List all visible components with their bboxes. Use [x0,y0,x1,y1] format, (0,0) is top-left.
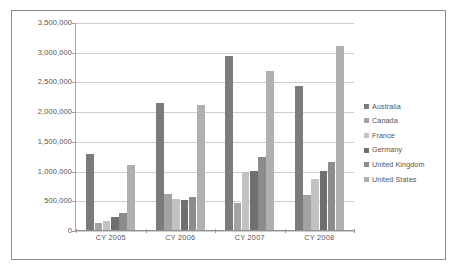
bar [181,200,189,231]
bar [172,199,180,231]
legend-item: United States [364,172,446,187]
y-tick-label: 3,500,000 [18,19,72,26]
legend-item-label: Canada [372,117,398,124]
y-tick-label: 2,500,000 [18,79,72,86]
bar [197,105,205,231]
bar [295,86,303,231]
legend-swatch-icon [364,133,369,138]
chart-legend: AustraliaCanadaFranceGermanyUnited Kingd… [364,99,446,187]
bar [303,195,311,231]
bar [311,179,319,231]
bar [119,213,127,231]
bar [111,217,119,231]
bar [127,165,135,231]
bar [86,154,94,231]
y-tick-label: 3,000,000 [18,49,72,56]
legend-item-label: France [372,132,395,139]
bar-group [215,23,285,231]
x-tick-mark [146,229,147,233]
plot-area [76,23,354,231]
legend-item-label: Australia [372,103,401,110]
bar-group [285,23,355,231]
legend-item: Australia [364,99,446,114]
x-tick-label: CY 2006 [165,233,195,242]
chart-container: 0500,0001,000,0001,500,0002,000,0002,500… [11,10,446,260]
legend-item: France [364,128,446,143]
x-tick-mark [76,229,77,233]
x-tick-mark [215,229,216,233]
bar [234,203,242,231]
bar [266,71,274,231]
bar [242,172,250,231]
y-tick-label: 2,000,000 [18,108,72,115]
bar [156,103,164,231]
bars-layer [76,23,354,231]
x-tick-mark [354,229,355,233]
bar [258,157,266,231]
legend-swatch-icon [364,118,369,123]
x-tick-label: CY 2005 [96,233,126,242]
x-tick-mark [285,229,286,233]
legend-item-label: United States [372,176,416,183]
chart-plot-wrapper: 0500,0001,000,0001,500,0002,000,0002,500… [12,11,445,259]
x-tick-label: CY 2007 [235,233,265,242]
legend-item: Canada [364,114,446,129]
y-tick-label: 1,000,000 [18,168,72,175]
bar [328,162,336,231]
y-tick-label: 0 [18,227,72,234]
bar-group [146,23,216,231]
legend-item-label: United Kingdom [372,161,425,168]
bar-group [76,23,146,231]
bar [189,197,197,231]
legend-item: United Kingdom [364,157,446,172]
legend-swatch-icon [364,104,369,109]
legend-swatch-icon [364,177,369,182]
legend-swatch-icon [364,148,369,153]
y-tick-label: 1,500,000 [18,138,72,145]
bar [164,194,172,231]
x-tick-label: CY 2008 [304,233,334,242]
y-axis: 0500,0001,000,0001,500,0002,000,0002,500… [18,11,72,259]
y-tick-label: 500,000 [18,198,72,205]
bar [250,171,258,231]
legend-item-label: Germany [372,146,402,153]
legend-swatch-icon [364,162,369,167]
x-axis: CY 2005CY 2006CY 2007CY 2008 [76,233,354,247]
bar [336,46,344,231]
bar [320,171,328,231]
bar [225,56,233,231]
legend-item: Germany [364,143,446,158]
